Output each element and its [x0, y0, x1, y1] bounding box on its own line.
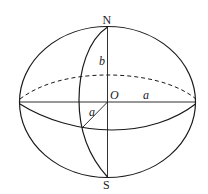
label-a-right: a — [143, 88, 149, 102]
label-north: N — [103, 13, 112, 27]
label-a-front: a — [89, 105, 95, 119]
ellipsoid-diagram: N S O b a a — [0, 0, 208, 194]
label-b: b — [99, 54, 105, 68]
label-south: S — [103, 178, 110, 192]
equator-back-dashed — [20, 75, 196, 99]
label-center: O — [110, 88, 119, 102]
